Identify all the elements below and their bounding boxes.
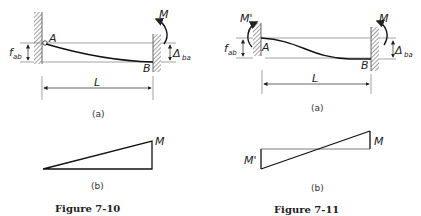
span-label: L: [94, 76, 100, 89]
figure-canvas: f ab Δ ba M A B L (a) M (b) Figure 7-10: [0, 0, 421, 216]
deflection-label: Δ: [172, 47, 181, 60]
left-moment-diagram-label: M': [244, 154, 257, 167]
deflected-beam: [46, 44, 153, 62]
moment-diagram-triangle: [43, 141, 152, 169]
deflection-subscript: ba: [404, 51, 413, 59]
rotation-subscript: ab: [228, 49, 237, 57]
deflected-beam: [261, 38, 371, 59]
figure-7-11-part-b: M' M (b): [244, 131, 384, 193]
rotation-subscript: ab: [13, 53, 22, 61]
right-moment-label: M: [379, 12, 389, 25]
figure-7-11-part-a: f ab Δ ba M' M A B L (a): [224, 12, 413, 113]
part-b-caption: (b): [311, 183, 324, 193]
span-label: L: [312, 72, 318, 85]
right-wall-support: [153, 34, 161, 72]
deflection-label: Δ: [394, 44, 403, 57]
right-moment-diagram-label: M: [374, 135, 384, 148]
part-a-caption: (a): [92, 109, 105, 119]
figure-caption: Figure 7-11: [274, 204, 339, 215]
figure-7-10: f ab Δ ba M A B L (a) M (b) Figure 7-10: [9, 8, 191, 214]
part-a-caption: (a): [311, 103, 324, 113]
moment-diagram-label: M: [155, 135, 165, 148]
moment-label: M: [159, 8, 169, 21]
figure-7-10-part-b: M (b): [43, 135, 165, 191]
deflection-subscript: ba: [182, 54, 191, 62]
point-b-label: B: [143, 62, 151, 75]
moment-diagram-line: [261, 131, 370, 169]
figure-7-11: f ab Δ ba M' M A B L (a) M': [224, 12, 413, 215]
right-wall-support: [371, 27, 379, 71]
left-moment-label: M': [240, 12, 253, 25]
part-b-caption: (b): [91, 181, 104, 191]
point-b-label: B: [361, 59, 369, 72]
point-a-label: A: [261, 41, 270, 54]
left-wall-support: [253, 23, 261, 56]
left-wall-support: [34, 12, 42, 64]
figure-caption: Figure 7-10: [55, 203, 120, 214]
point-a-label: A: [48, 32, 57, 45]
figure-7-10-part-a: f ab Δ ba M A B L (a): [9, 8, 191, 119]
